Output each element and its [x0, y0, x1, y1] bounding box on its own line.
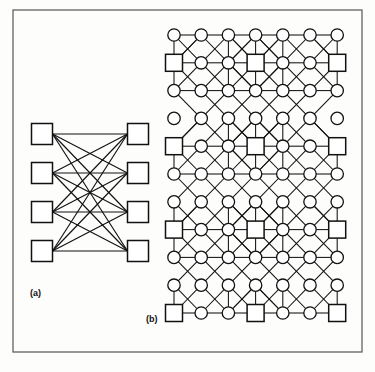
- panel-a-left-node-4: [32, 241, 53, 262]
- panel-b-node: [277, 112, 289, 124]
- panel-a-right-node-4: [128, 241, 149, 262]
- panel-b-label: (b): [146, 314, 158, 324]
- panel-a-left-node-2: [32, 163, 53, 184]
- panel-b-node: [304, 140, 316, 152]
- panel-b-node: [277, 279, 289, 291]
- panel-b-node: [195, 29, 207, 41]
- panel-b-node: [277, 168, 289, 180]
- panel-b-node: [331, 112, 343, 124]
- panel-b-node: [331, 279, 343, 291]
- panel-b-node: [249, 84, 261, 96]
- panel-b-switch-node: [166, 221, 183, 238]
- panel-b-node: [249, 279, 261, 291]
- panel-b-node: [195, 140, 207, 152]
- panel-b-node: [222, 84, 234, 96]
- panel-b-switch-node: [329, 221, 346, 238]
- panel-a-right-node-3: [128, 202, 149, 223]
- panel-b-switch-node: [166, 54, 183, 71]
- panel-b-node: [304, 168, 316, 180]
- panel-b-node: [331, 196, 343, 208]
- panel-b-node: [168, 112, 180, 124]
- panel-b-node: [304, 307, 316, 319]
- panel-b-switch-node: [247, 221, 264, 238]
- panel-b-node: [222, 251, 234, 263]
- panel-a-left-node-1: [32, 124, 53, 145]
- panel-b-switch-node: [247, 305, 264, 322]
- panel-b-node: [195, 112, 207, 124]
- panel-b-node: [222, 279, 234, 291]
- panel-b-node: [277, 223, 289, 235]
- figure-canvas: (a) (b): [0, 0, 375, 372]
- panel-b-node: [195, 57, 207, 69]
- panel-b-node: [277, 307, 289, 319]
- panel-b-node: [249, 112, 261, 124]
- panel-b-node: [222, 307, 234, 319]
- panel-a-right-node-2: [128, 163, 149, 184]
- panel-b-switch-node: [247, 138, 264, 155]
- panel-b-node: [331, 84, 343, 96]
- panel-a-right-node-1: [128, 124, 149, 145]
- panel-b-node: [222, 168, 234, 180]
- panel-b-node: [195, 84, 207, 96]
- panel-b-node: [277, 140, 289, 152]
- panel-b-node: [195, 168, 207, 180]
- panel-b-node: [277, 29, 289, 41]
- figure-background: [0, 0, 375, 372]
- panel-b-node: [249, 251, 261, 263]
- panel-b-node: [222, 29, 234, 41]
- panel-b-node: [304, 223, 316, 235]
- panel-b-node: [168, 279, 180, 291]
- panel-b-node: [222, 223, 234, 235]
- panel-b-switch-node: [329, 138, 346, 155]
- panel-b-node: [331, 168, 343, 180]
- panel-b-node: [277, 57, 289, 69]
- panel-b-node: [304, 57, 316, 69]
- panel-b-switch-node: [166, 138, 183, 155]
- panel-b-node: [331, 251, 343, 263]
- panel-b-switch-node: [329, 54, 346, 71]
- panel-b-node: [195, 223, 207, 235]
- panel-b-node: [277, 84, 289, 96]
- panel-b-node: [304, 84, 316, 96]
- panel-b-node: [168, 168, 180, 180]
- panel-a-left-node-3: [32, 202, 53, 223]
- panel-b-node: [195, 279, 207, 291]
- panel-b-switch-node: [166, 305, 183, 322]
- panel-b-node: [168, 251, 180, 263]
- figure-container: (a) (b): [0, 0, 375, 372]
- panel-b-node: [249, 29, 261, 41]
- panel-b-node: [304, 196, 316, 208]
- panel-b-node: [195, 196, 207, 208]
- panel-b-node: [222, 140, 234, 152]
- panel-b-node: [277, 196, 289, 208]
- panel-b-node: [304, 279, 316, 291]
- panel-b-node: [304, 251, 316, 263]
- panel-b-node: [249, 196, 261, 208]
- panel-b-node: [222, 196, 234, 208]
- panel-b-node: [222, 57, 234, 69]
- panel-b-node: [195, 251, 207, 263]
- panel-b-node: [168, 196, 180, 208]
- panel-b-node: [249, 168, 261, 180]
- panel-b-switch-node: [247, 54, 264, 71]
- panel-b-node: [222, 112, 234, 124]
- panel-b-node: [304, 29, 316, 41]
- panel-b-node: [195, 307, 207, 319]
- panel-b-node: [168, 84, 180, 96]
- panel-b-switch-node: [329, 305, 346, 322]
- panel-b-node: [331, 29, 343, 41]
- panel-b-node: [277, 251, 289, 263]
- panel-b-node: [168, 29, 180, 41]
- panel-a-label: (a): [30, 288, 41, 298]
- panel-b-node: [304, 112, 316, 124]
